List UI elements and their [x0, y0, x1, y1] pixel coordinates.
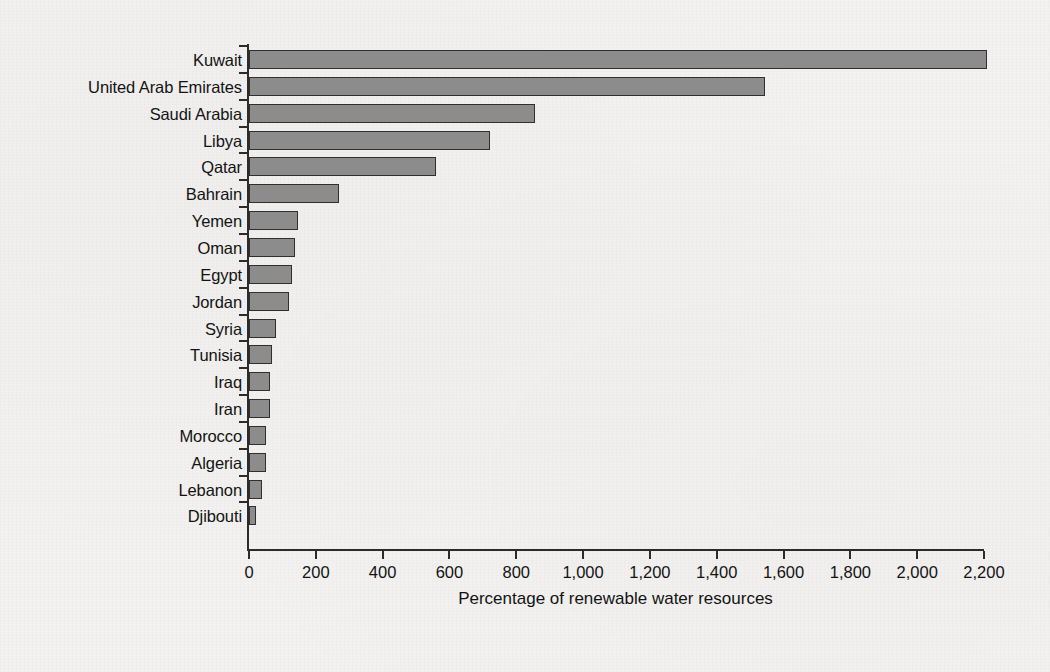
category-label: Tunisia: [0, 346, 242, 365]
category-label: Algeria: [0, 454, 242, 473]
y-axis-tick: [239, 475, 248, 477]
bar: [249, 319, 276, 338]
x-axis-tick-label: 2,000: [897, 562, 938, 582]
x-axis-tick-label: 1,600: [763, 562, 804, 582]
bar: [249, 50, 987, 69]
bar: [249, 426, 266, 445]
category-label: Iraq: [0, 373, 242, 392]
x-axis-tick-label: 1,200: [629, 562, 670, 582]
category-label: United Arab Emirates: [0, 78, 242, 97]
x-axis-tick-label: 400: [369, 562, 397, 582]
category-label: Saudi Arabia: [0, 105, 242, 124]
bar: [249, 345, 272, 364]
category-label: Lebanon: [0, 481, 242, 500]
x-axis-tick-label: 2,200: [963, 562, 1004, 582]
bar: [249, 453, 266, 472]
y-axis-tick: [239, 179, 248, 181]
chart-page: KuwaitUnited Arab EmiratesSaudi ArabiaLi…: [0, 0, 1050, 672]
y-axis-tick: [239, 367, 248, 369]
x-axis-tick: [783, 551, 785, 559]
x-axis-tick: [382, 551, 384, 559]
x-axis-tick: [448, 551, 450, 559]
y-axis-tick: [239, 45, 248, 47]
y-axis-tick: [239, 99, 248, 101]
x-axis-tick-label: 1,000: [562, 562, 603, 582]
y-axis-tick: [239, 394, 248, 396]
y-axis-tick: [239, 206, 248, 208]
x-axis-tick: [515, 551, 517, 559]
y-axis-tick: [239, 260, 248, 262]
y-axis-tick: [239, 501, 248, 503]
category-label: Morocco: [0, 427, 242, 446]
y-axis-tick: [239, 448, 248, 450]
category-label: Libya: [0, 132, 242, 151]
bar: [249, 211, 298, 230]
y-axis-tick: [239, 314, 248, 316]
y-axis-tick: [239, 152, 248, 154]
x-axis-tick: [916, 551, 918, 559]
x-axis-tick-label: 1,800: [830, 562, 871, 582]
x-axis-tick-label: 800: [503, 562, 531, 582]
bar: [249, 372, 270, 391]
x-axis-tick: [849, 551, 851, 559]
category-label: Kuwait: [0, 51, 242, 70]
bar: [249, 104, 535, 123]
category-label: Yemen: [0, 212, 242, 231]
x-axis-tick: [315, 551, 317, 559]
bar: [249, 292, 289, 311]
x-axis-line: [247, 549, 984, 551]
category-label: Egypt: [0, 266, 242, 285]
x-axis-tick: [983, 551, 985, 559]
bar: [249, 77, 765, 96]
bar: [249, 399, 270, 418]
bar: [249, 131, 490, 150]
category-label: Qatar: [0, 158, 242, 177]
bar: [249, 157, 436, 176]
y-axis-tick: [239, 340, 248, 342]
bar: [249, 480, 262, 499]
x-axis-tick: [649, 551, 651, 559]
category-label: Jordan: [0, 293, 242, 312]
x-axis-tick-label: 600: [436, 562, 464, 582]
y-axis-tick: [239, 287, 248, 289]
category-label: Bahrain: [0, 185, 242, 204]
y-axis-tick: [239, 72, 248, 74]
category-label: Djibouti: [0, 507, 242, 526]
x-axis-tick-label: 1,400: [696, 562, 737, 582]
bar-chart: KuwaitUnited Arab EmiratesSaudi ArabiaLi…: [0, 0, 1050, 672]
x-axis-tick-label: 0: [244, 562, 253, 582]
category-label: Iran: [0, 400, 242, 419]
category-label: Oman: [0, 239, 242, 258]
bar: [249, 238, 295, 257]
category-label: Syria: [0, 320, 242, 339]
y-axis-tick: [239, 421, 248, 423]
x-axis-tick: [582, 551, 584, 559]
x-axis-tick-label: 200: [302, 562, 330, 582]
bar: [249, 184, 339, 203]
y-axis-tick: [239, 233, 248, 235]
y-axis-tick: [239, 126, 248, 128]
x-axis-title: Percentage of renewable water resources: [247, 589, 984, 609]
x-axis-tick: [248, 551, 250, 559]
bar: [249, 506, 256, 525]
x-axis-tick: [716, 551, 718, 559]
bar: [249, 265, 292, 284]
